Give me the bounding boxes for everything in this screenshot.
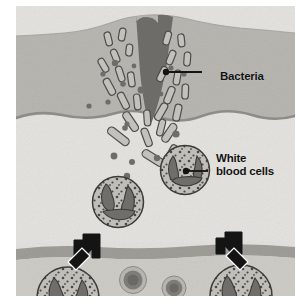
label-white-blood-cells-line1: White [216,152,274,165]
label-bacteria[interactable]: Bacteria [220,70,264,82]
white-blood-cells-callout[interactable] [183,168,208,174]
illustration-figure: Bacteria White blood cells [0,0,308,303]
label-white-blood-cells[interactable]: White blood cells [216,152,274,177]
label-white-blood-cells-line2: blood cells [216,165,274,178]
bacteria-callout[interactable] [163,69,202,75]
diagram-plate: Bacteria White blood cells [16,6,295,296]
callout-layer [16,6,295,296]
